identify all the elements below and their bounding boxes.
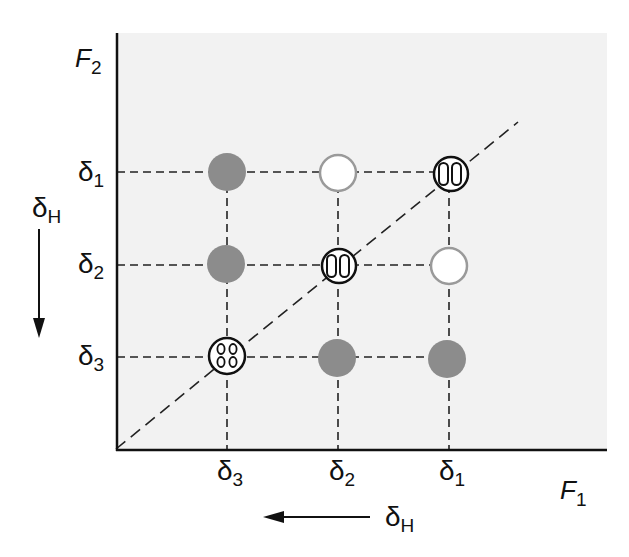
y-tick-label-delta3: δ3 — [78, 340, 104, 375]
filled-circle — [207, 245, 245, 283]
x-axis-label: F1 — [560, 475, 586, 510]
y-tick-label-delta2: δ2 — [78, 248, 104, 283]
four-lobed-circle — [209, 338, 245, 374]
filled-circle — [318, 339, 356, 377]
x-tick-label-delta1: δ1 — [439, 455, 465, 490]
y-axis-label: F2 — [75, 43, 101, 78]
left-arrow-icon — [263, 511, 284, 523]
open-circle — [431, 248, 467, 284]
two-lobed-circle — [322, 249, 356, 283]
y-tick-label-delta1: δ1 — [78, 156, 104, 191]
two-lobed-circle — [434, 157, 468, 191]
bottom-arrow-label: δH — [385, 501, 414, 536]
filled-circle — [428, 340, 466, 378]
down-arrow-icon — [33, 318, 45, 338]
x-tick-label-delta2: δ2 — [329, 455, 355, 490]
x-tick-label-delta3: δ3 — [217, 455, 243, 490]
left-arrow-label: δH — [32, 192, 61, 227]
open-circle — [320, 155, 356, 191]
phase-diagram: F2 F1 δ1 δ2 δ3 δ3 δ2 δ1 δH δH — [0, 0, 629, 557]
filled-circle — [208, 153, 246, 191]
